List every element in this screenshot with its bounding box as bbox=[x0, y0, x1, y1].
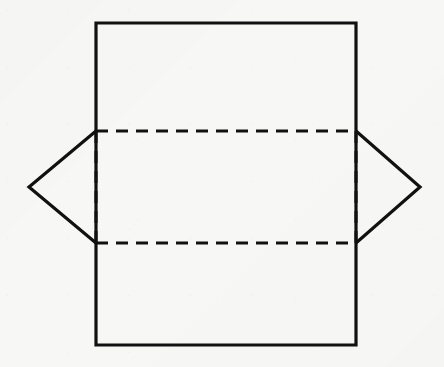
net-diagram bbox=[0, 0, 444, 367]
outer-rectangle-shape bbox=[96, 23, 356, 345]
right-triangular-flap bbox=[356, 131, 420, 243]
diagram-canvas bbox=[0, 0, 444, 367]
left-triangular-flap bbox=[29, 131, 96, 243]
